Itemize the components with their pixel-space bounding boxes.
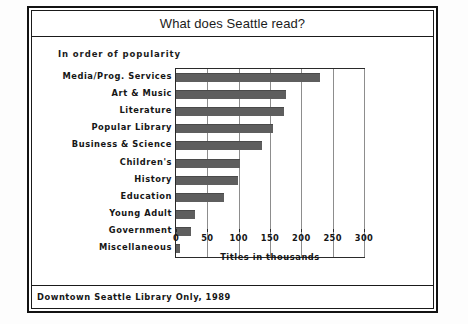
axis-tick: [239, 229, 240, 232]
bar: [176, 73, 320, 82]
axis-tick-label: 250: [323, 233, 342, 243]
axis-tick-label: 300: [355, 233, 374, 243]
bar: [176, 193, 224, 202]
axis-tick: [333, 229, 334, 232]
axis-tick-label: 150: [261, 233, 280, 243]
category-label: Miscellaneous: [99, 242, 172, 252]
category-label: Art & Music: [112, 88, 172, 98]
category-label: Young Adult: [109, 208, 172, 218]
footer-band: Downtown Seattle Library Only, 1989: [32, 285, 433, 308]
bar: [176, 176, 238, 185]
category-label: Education: [121, 191, 172, 201]
source-note: Downtown Seattle Library Only, 1989: [37, 292, 231, 302]
category-label: Government: [109, 225, 172, 235]
category-axis-labels: Media/Prog. ServicesArt & MusicLiteratur…: [32, 68, 175, 260]
axis-tick-label: 100: [229, 233, 248, 243]
scanned-page: What does Seattle read? In order of popu…: [0, 0, 468, 324]
bar: [176, 210, 195, 219]
chart-body: In order of popularity Media/Prog. Servi…: [32, 38, 433, 285]
bar: [176, 107, 284, 116]
category-label: Business & Science: [72, 139, 172, 149]
category-label: Popular Library: [91, 122, 172, 132]
axis-tick-label: 0: [173, 233, 179, 243]
axis-tick-label: 50: [201, 233, 213, 243]
category-label: Children's: [120, 157, 172, 167]
bar: [176, 159, 240, 168]
title-band: What does Seattle read?: [32, 11, 433, 37]
axis-tick: [364, 229, 365, 232]
axis-tick: [207, 229, 208, 232]
x-axis-title: Titles in thousands: [175, 252, 365, 262]
bar: [176, 141, 262, 150]
axis-tick-label: 200: [292, 233, 311, 243]
axis-tick: [176, 229, 177, 232]
axis-tick: [270, 229, 271, 232]
bar: [176, 124, 273, 133]
axis-tick: [301, 229, 302, 232]
chart-subtitle: In order of popularity: [58, 49, 181, 59]
category-label: Media/Prog. Services: [62, 71, 172, 81]
bar: [176, 90, 286, 99]
category-label: Literature: [119, 105, 172, 115]
category-label: History: [134, 174, 172, 184]
chart-title: What does Seattle read?: [160, 16, 305, 31]
